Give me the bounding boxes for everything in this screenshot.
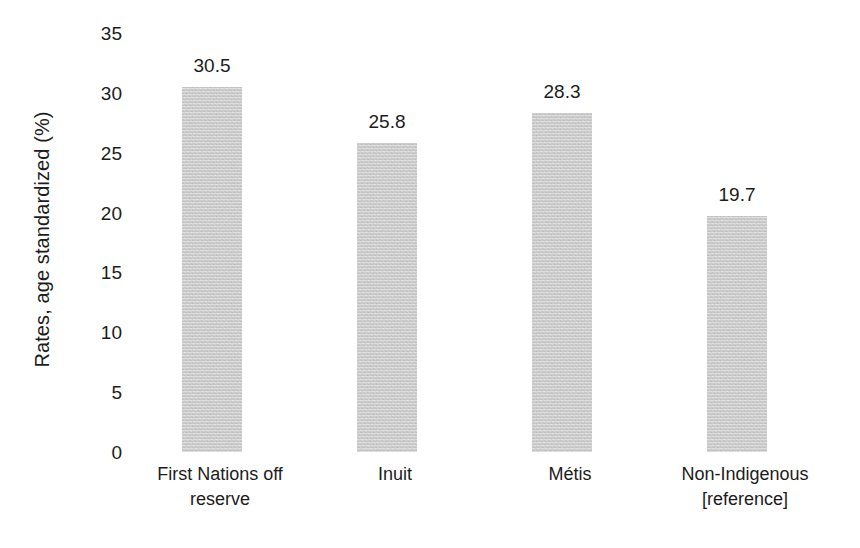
plot-area: 30.525.828.319.7 xyxy=(132,33,832,452)
x-axis-label-line1: First Nations off xyxy=(157,464,283,484)
bar-slot: 25.8 xyxy=(307,33,482,452)
y-axis-tick-labels: 05101520253035 xyxy=(74,0,122,548)
bar[interactable] xyxy=(182,87,242,452)
x-axis-label-line2: [reference] xyxy=(645,487,845,512)
x-axis-label: First Nations offreserve xyxy=(120,462,320,512)
y-axis-title: Rates, age standardized (%) xyxy=(31,30,54,450)
y-axis-tick-10: 10 xyxy=(74,323,122,342)
bar-chart: Rates, age standardized (%) 051015202530… xyxy=(0,0,860,548)
y-axis-tick-5: 5 xyxy=(74,383,122,402)
y-axis-tick-0: 0 xyxy=(74,443,122,462)
y-axis-tick-35: 35 xyxy=(74,24,122,43)
bar-value-label: 25.8 xyxy=(307,112,467,131)
bar[interactable] xyxy=(707,216,767,452)
x-axis-label-line1: Inuit xyxy=(378,464,412,484)
y-axis-tick-25: 25 xyxy=(74,143,122,162)
bar[interactable] xyxy=(532,113,592,452)
x-axis-label: Inuit xyxy=(295,462,495,487)
y-axis-tick-15: 15 xyxy=(74,263,122,282)
bar-value-label: 28.3 xyxy=(482,82,642,101)
x-axis-category-labels: First Nations offreserveInuitMétisNon-In… xyxy=(132,462,832,542)
bar-value-label: 19.7 xyxy=(657,185,817,204)
bar-value-label: 30.5 xyxy=(132,56,292,75)
bar-slot: 30.5 xyxy=(132,33,307,452)
x-axis-label: Non-Indigenous[reference] xyxy=(645,462,845,512)
y-axis-tick-20: 20 xyxy=(74,203,122,222)
bar-slot: 19.7 xyxy=(657,33,832,452)
y-axis-tick-30: 30 xyxy=(74,83,122,102)
x-axis-label-line1: Non-Indigenous xyxy=(681,464,808,484)
x-axis-label-line2: reserve xyxy=(120,487,320,512)
x-axis-label: Métis xyxy=(470,462,670,487)
bar-slot: 28.3 xyxy=(482,33,657,452)
bar[interactable] xyxy=(357,143,417,452)
x-axis-label-line1: Métis xyxy=(548,464,591,484)
